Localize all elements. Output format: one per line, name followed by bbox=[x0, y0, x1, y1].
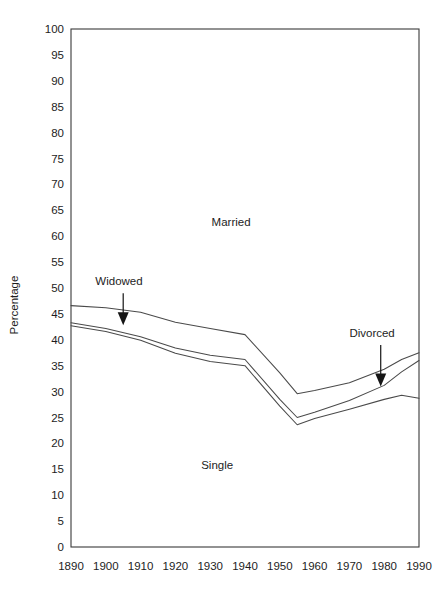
marital-status-line-chart: 0510152025303540455055606570758085909510… bbox=[0, 0, 445, 592]
y-tick-label: 5 bbox=[58, 515, 64, 527]
y-tick-label: 40 bbox=[51, 334, 64, 346]
y-tick-label: 10 bbox=[51, 489, 64, 501]
y-tick-label: 85 bbox=[51, 101, 64, 113]
chart-container: 0510152025303540455055606570758085909510… bbox=[0, 0, 445, 592]
band-label-married: Married bbox=[212, 216, 251, 228]
annotation-label-divorced: Divorced bbox=[349, 327, 394, 339]
y-tick-label: 15 bbox=[51, 463, 64, 475]
x-tick-label: 1910 bbox=[128, 560, 154, 572]
y-tick-label: 95 bbox=[51, 49, 64, 61]
y-tick-label: 30 bbox=[51, 386, 64, 398]
x-tick-label: 1950 bbox=[267, 560, 293, 572]
y-tick-label: 0 bbox=[58, 541, 64, 553]
y-tick-label: 90 bbox=[51, 75, 64, 87]
x-tick-label: 1920 bbox=[163, 560, 189, 572]
y-tick-label: 25 bbox=[51, 412, 64, 424]
y-tick-label: 80 bbox=[51, 127, 64, 139]
x-axis-tick-labels: 1890190019101920193019401950196019701980… bbox=[58, 560, 432, 572]
y-tick-label: 65 bbox=[51, 204, 64, 216]
annotation-label-widowed: Widowed bbox=[95, 275, 142, 287]
y-axis-title: Percentage bbox=[8, 276, 20, 335]
y-tick-label: 20 bbox=[51, 437, 64, 449]
y-tick-label: 45 bbox=[51, 308, 64, 320]
x-tick-label: 1980 bbox=[371, 560, 397, 572]
y-tick-label: 35 bbox=[51, 360, 64, 372]
x-tick-label: 1890 bbox=[58, 560, 84, 572]
band-label-single: Single bbox=[201, 459, 233, 471]
y-tick-label: 55 bbox=[51, 256, 64, 268]
y-tick-label: 75 bbox=[51, 153, 64, 165]
x-tick-label: 1970 bbox=[337, 560, 363, 572]
x-tick-label: 1930 bbox=[197, 560, 223, 572]
x-tick-label: 1940 bbox=[232, 560, 258, 572]
y-tick-label: 60 bbox=[51, 230, 64, 242]
chart-background bbox=[0, 0, 445, 592]
x-tick-label: 1990 bbox=[406, 560, 432, 572]
y-tick-label: 70 bbox=[51, 178, 64, 190]
y-tick-label: 50 bbox=[51, 282, 64, 294]
x-tick-label: 1960 bbox=[302, 560, 328, 572]
x-tick-label: 1900 bbox=[93, 560, 119, 572]
y-tick-label: 100 bbox=[45, 23, 64, 35]
